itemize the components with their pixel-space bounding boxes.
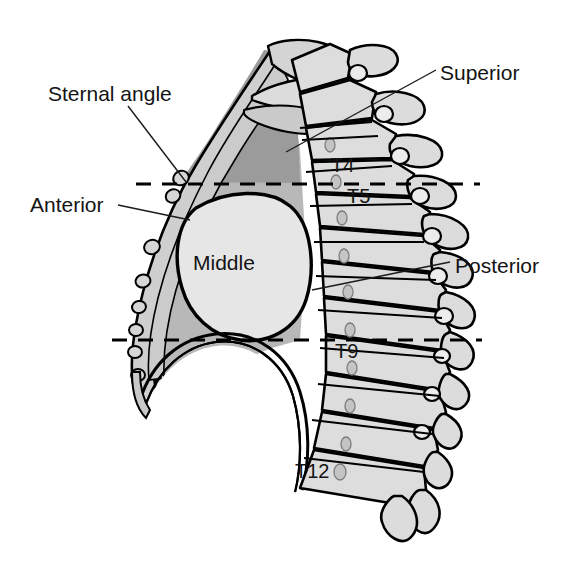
costal-facet-icon: [423, 228, 441, 244]
label-sternal-angle: Sternal angle: [48, 82, 172, 105]
mediastinum-diagram: Sternal angle Anterior Middle Superior P…: [0, 0, 565, 562]
costal-facet-icon: [434, 349, 450, 363]
label-posterior: Posterior: [455, 254, 539, 277]
costal-facet-icon: [391, 148, 409, 164]
label-middle: Middle: [193, 251, 255, 274]
label-vertebra-t5: T5: [347, 185, 370, 207]
nutrient-foramen-icon: [339, 249, 349, 263]
sternal-angle-leader-line: [128, 106, 186, 182]
spinous-process: [439, 374, 469, 409]
spinous-process: [433, 414, 462, 449]
costal-facet-icon: [435, 308, 453, 324]
nutrient-foramen-icon: [331, 175, 341, 189]
nutrient-foramen-icon: [341, 437, 351, 451]
label-vertebra-t9: T9: [335, 340, 358, 362]
label-superior: Superior: [440, 61, 519, 84]
costal-facet-icon: [429, 268, 447, 284]
nutrient-foramen-icon: [345, 323, 355, 337]
nutrient-foramen-icon: [343, 285, 353, 299]
costal-notch-icon: [128, 346, 142, 358]
nutrient-foramen-icon: [345, 399, 355, 413]
costal-facet-icon: [375, 106, 393, 122]
label-vertebra-t12: T12: [295, 460, 329, 482]
label-vertebra-t4: T4: [331, 154, 354, 176]
anatomy-illustration: Sternal angle Anterior Middle Superior P…: [0, 0, 565, 562]
label-anterior: Anterior: [30, 193, 104, 216]
costal-facet-icon: [349, 65, 367, 81]
costal-notch-icon: [129, 324, 143, 336]
nutrient-foramen-icon: [347, 361, 357, 375]
spinous-process: [424, 452, 452, 488]
costal-facet-icon: [411, 188, 429, 204]
nutrient-foramen-icon: [337, 211, 347, 225]
nutrient-foramen-icon: [334, 464, 346, 480]
nutrient-foramen-icon: [325, 138, 335, 152]
